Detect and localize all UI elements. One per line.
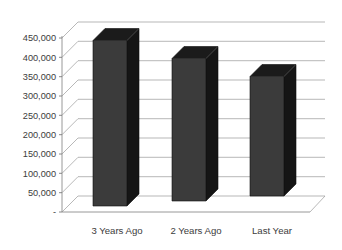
y-label-400000: 400,000 <box>23 53 56 63</box>
bar-3-years-ago[interactable] <box>93 29 139 207</box>
y-label-300000: 300,000 <box>23 91 56 101</box>
bar-last-year-side <box>284 65 296 197</box>
y-label-150000: 150,000 <box>23 149 56 159</box>
y-label-100000: 100,000 <box>23 169 56 179</box>
bar-3-years-ago-side <box>127 29 139 207</box>
y-label-250000: 250,000 <box>23 111 56 121</box>
bar-3-years-ago-front <box>93 41 127 207</box>
chart-container: 450,000 400,000 350,000 300,000 250,000 … <box>0 0 342 250</box>
bar-2-years-ago[interactable] <box>172 47 218 202</box>
category-label-2-years-ago: 2 Years Ago <box>170 225 221 236</box>
column-chart-3d: 450,000 400,000 350,000 300,000 250,000 … <box>0 0 342 250</box>
bar-last-year-front <box>250 77 284 197</box>
y-label-200000: 200,000 <box>23 130 56 140</box>
y-label-0: - <box>53 207 56 217</box>
y-label-350000: 350,000 <box>23 72 56 82</box>
bar-last-year[interactable] <box>250 65 296 197</box>
bar-2-years-ago-side <box>206 47 218 202</box>
y-axis-labels: 450,000 400,000 350,000 300,000 250,000 … <box>23 33 56 217</box>
y-label-50000: 50,000 <box>28 188 56 198</box>
y-label-450000: 450,000 <box>23 33 56 43</box>
bar-2-years-ago-front <box>172 59 206 202</box>
category-label-3-years-ago: 3 Years Ago <box>91 225 142 236</box>
category-label-last-year: Last Year <box>252 225 293 236</box>
category-axis-labels: 3 Years Ago 2 Years Ago Last Year <box>91 225 292 236</box>
